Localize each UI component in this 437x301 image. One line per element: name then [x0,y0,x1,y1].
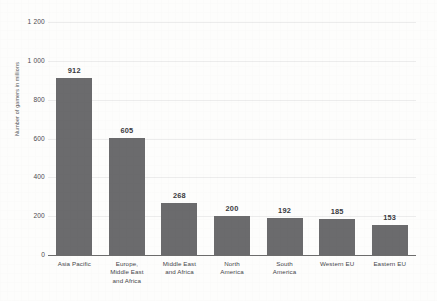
x-tick-label-line: Europe, [101,260,154,268]
bar[interactable] [319,219,355,255]
bar-chart: Number of gamers in millions 02004006008… [0,0,437,301]
y-tick-label: 1 200 [5,18,45,25]
y-tick-label: 600 [5,135,45,142]
x-tick-label-line: Eastern EU [363,260,416,268]
x-tick-label-line: South [258,260,311,268]
y-tick-label: 1 000 [5,57,45,64]
bar[interactable] [267,218,303,255]
bar-slot: 185 [311,22,364,255]
bar-slot: 192 [258,22,311,255]
x-axis-baseline [48,255,416,256]
bar[interactable] [214,216,250,255]
x-tick-label-line: Asia Pacific [48,260,101,268]
bar-series: 912605268200192185153 [48,22,416,255]
x-tick-label: SouthAmerica [258,260,311,277]
bar-value-label: 268 [173,191,186,200]
bar[interactable] [56,78,92,255]
y-tick-label: 800 [5,96,45,103]
bar-value-label: 192 [278,206,291,215]
bar[interactable] [372,225,408,255]
x-axis-tick-labels: Asia PacificEurope,Middle Eastand Africa… [48,260,416,301]
x-tick-label-line: America [258,268,311,276]
x-tick-label-line: and Africa [153,268,206,276]
bar[interactable] [109,138,145,255]
y-tick-label: 200 [5,212,45,219]
x-tick-label-line: America [206,268,259,276]
bar-value-label: 200 [226,204,239,213]
bar-slot: 268 [153,22,206,255]
bar-slot: 605 [101,22,154,255]
y-tick-label: 0 [5,251,45,258]
bar-slot: 200 [206,22,259,255]
bar-value-label: 153 [383,213,396,222]
bar-value-label: 605 [120,126,133,135]
x-tick-label: Asia Pacific [48,260,101,268]
x-tick-label-line: North [206,260,259,268]
x-tick-label-line: Middle East [153,260,206,268]
bar-slot: 912 [48,22,101,255]
x-tick-label: Western EU [311,260,364,268]
bar-value-label: 912 [68,66,81,75]
x-tick-label: NorthAmerica [206,260,259,277]
x-tick-label-line: Western EU [311,260,364,268]
y-tick-label: 400 [5,173,45,180]
x-tick-label-line: and Africa [101,277,154,285]
x-tick-label: Middle Eastand Africa [153,260,206,277]
x-tick-label-line: Middle East [101,268,154,276]
bar-value-label: 185 [331,207,344,216]
bar-slot: 153 [363,22,416,255]
x-tick-label: Eastern EU [363,260,416,268]
x-tick-label: Europe,Middle Eastand Africa [101,260,154,285]
bar[interactable] [161,203,197,255]
